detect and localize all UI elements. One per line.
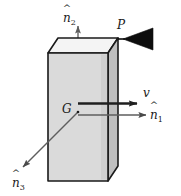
n1-subscript: 1 xyxy=(158,115,163,124)
prism-front-face xyxy=(48,53,108,181)
diagram-canvas: P G v ^ n 1 ^ n 2 ^ n 3 xyxy=(0,0,181,196)
rigid-body-diagram-svg xyxy=(0,0,181,196)
hat-icon: ^ xyxy=(150,100,158,110)
n3-hat-stack: ^ n xyxy=(12,174,20,190)
prism-right-face xyxy=(108,38,118,181)
impactor-triangle xyxy=(123,28,153,50)
label-unit-vector-n3: ^ n 3 xyxy=(12,174,25,192)
rigid-body-prism xyxy=(48,38,118,181)
prism-top-face xyxy=(48,38,118,53)
prism-front-shading xyxy=(101,55,107,180)
n1-hat-stack: ^ n xyxy=(150,106,158,122)
label-point-g: G xyxy=(62,103,72,115)
label-point-p: P xyxy=(117,19,125,31)
n3-base: n xyxy=(12,176,20,190)
n1-base: n xyxy=(150,108,158,122)
label-unit-vector-n1: ^ n 1 xyxy=(150,106,163,124)
n2-hat-stack: ^ n xyxy=(63,9,71,25)
n2-base: n xyxy=(63,11,71,25)
label-velocity: v xyxy=(143,87,150,99)
n2-subscript: 2 xyxy=(71,18,76,27)
center-of-mass-marker xyxy=(77,111,80,114)
n3-subscript: 3 xyxy=(20,183,25,192)
hat-icon: ^ xyxy=(12,168,20,178)
hat-icon: ^ xyxy=(63,3,71,13)
label-unit-vector-n2: ^ n 2 xyxy=(63,9,76,27)
